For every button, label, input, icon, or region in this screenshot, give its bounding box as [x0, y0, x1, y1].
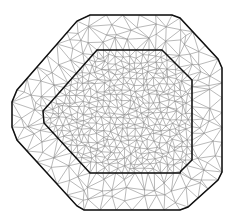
mesh-figure — [0, 0, 234, 221]
